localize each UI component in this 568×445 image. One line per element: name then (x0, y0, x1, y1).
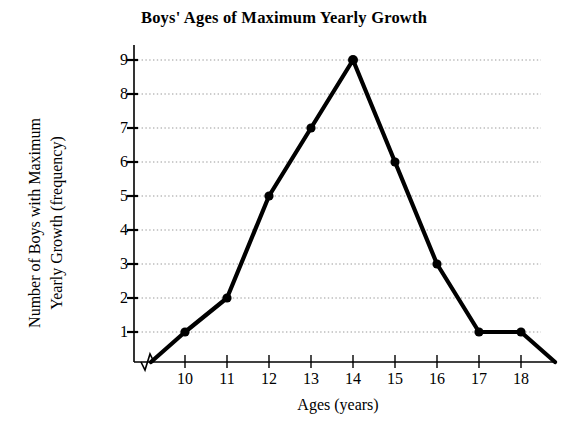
chart-figure: Boys' Ages of Maximum Yearly Growth Numb… (0, 0, 568, 445)
data-markers (180, 55, 525, 337)
data-point-15 (390, 157, 399, 166)
data-point-11 (222, 293, 231, 302)
data-point-17 (474, 327, 483, 336)
grid-lines (134, 60, 541, 332)
data-point-14 (348, 55, 358, 65)
data-point-16 (432, 259, 441, 268)
data-line (151, 60, 555, 362)
y-axis-ticks (127, 60, 138, 332)
data-point-13 (306, 123, 315, 132)
data-point-10 (180, 327, 189, 336)
data-point-18 (516, 327, 525, 336)
plot-area (0, 0, 568, 445)
data-point-12 (264, 191, 273, 200)
